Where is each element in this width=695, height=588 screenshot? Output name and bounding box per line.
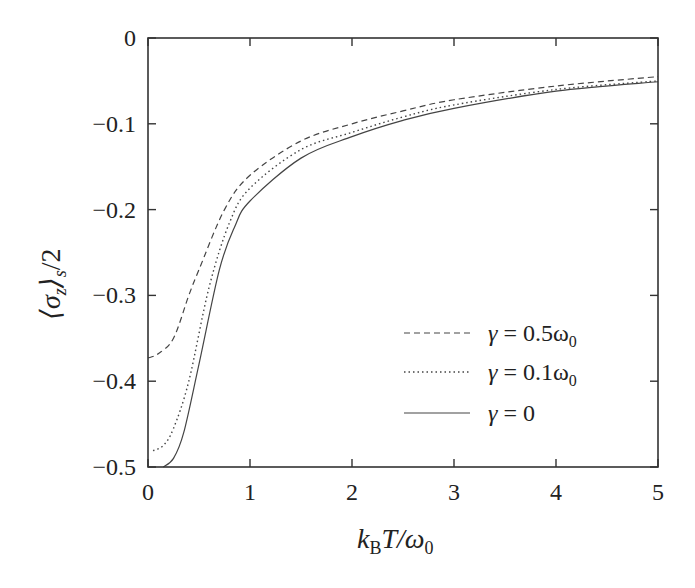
y-tick-label: 0	[124, 25, 136, 51]
line-chart: 0123450−0.1−0.2−0.3−0.4−0.5 γ = 0.5ω0γ =…	[0, 0, 695, 588]
curves	[148, 77, 658, 467]
series-line-dotted	[153, 81, 658, 451]
axis-ticks: 0123450−0.1−0.2−0.3−0.4−0.5	[92, 25, 664, 505]
x-tick-label: 5	[652, 479, 664, 505]
x-axis-label: kBT/ω0	[357, 523, 434, 558]
x-tick-label: 1	[244, 479, 256, 505]
x-tick-label: 2	[346, 479, 358, 505]
legend-label: γ = 0	[488, 400, 535, 426]
y-tick-label: −0.3	[92, 282, 136, 308]
x-tick-label: 3	[448, 479, 460, 505]
x-tick-label: 4	[550, 479, 562, 505]
y-tick-label: −0.1	[92, 111, 136, 137]
series-line-dashed	[148, 77, 658, 358]
legend-label: γ = 0.5ω0	[488, 320, 577, 350]
legend: γ = 0.5ω0γ = 0.1ω0γ = 0	[404, 320, 577, 426]
y-tick-label: −0.4	[92, 368, 136, 394]
y-axis-label: ⟨σz⟩s/2	[35, 249, 70, 320]
y-tick-label: −0.5	[92, 454, 136, 480]
x-tick-label: 0	[142, 479, 154, 505]
legend-label: γ = 0.1ω0	[488, 359, 577, 389]
y-tick-label: −0.2	[92, 197, 136, 223]
series-line-solid	[163, 82, 658, 467]
